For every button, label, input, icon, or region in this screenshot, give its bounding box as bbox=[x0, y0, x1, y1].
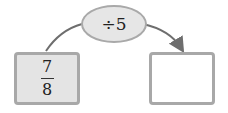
fraction-denominator: 8 bbox=[42, 82, 52, 98]
output-arrow bbox=[143, 24, 181, 48]
operation-oval: ÷5 bbox=[81, 5, 147, 43]
input-connector-line bbox=[46, 24, 82, 51]
fraction-numerator: 7 bbox=[42, 59, 52, 75]
input-fraction: 7 8 bbox=[41, 59, 54, 98]
input-box: 7 8 bbox=[14, 52, 80, 105]
output-answer-box[interactable] bbox=[149, 52, 215, 105]
operation-label: ÷5 bbox=[101, 14, 126, 34]
fraction-bar bbox=[41, 78, 54, 79]
